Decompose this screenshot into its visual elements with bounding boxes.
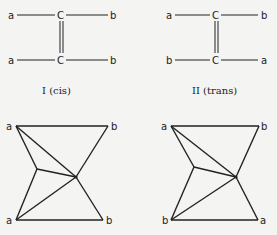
trans-caption: II (trans) xyxy=(192,85,237,96)
cis-top-left-label: a xyxy=(8,10,14,21)
graph-cis-edge xyxy=(16,126,76,177)
graph-trans-top-right-label: b xyxy=(261,121,267,132)
graph-cis-bottom-right-label: b xyxy=(106,215,112,226)
graph-cis-edge xyxy=(76,177,103,220)
graph-trans-center-node xyxy=(234,175,237,178)
graph-cis-top-left-label: a xyxy=(6,121,12,132)
cis-bottom-carbon: C xyxy=(57,55,64,66)
trans-top-carbon: C xyxy=(212,10,219,21)
graph-cis: a b a b xyxy=(6,121,117,226)
cis-bottom-left-label: a xyxy=(8,55,14,66)
isomer-diagram: a C b a C b I (cis) a C b b C a II (tran… xyxy=(0,0,277,235)
graph-trans-edge xyxy=(171,126,194,167)
cis-top-carbon: C xyxy=(57,10,64,21)
cis-caption: I (cis) xyxy=(42,85,71,96)
molecule-cis: a C b a C b I (cis) xyxy=(8,10,116,96)
graph-trans-edge xyxy=(236,177,258,220)
trans-bottom-right-label: a xyxy=(261,55,267,66)
trans-bottom-left-label: b xyxy=(166,55,172,66)
cis-top-right-label: b xyxy=(110,10,116,21)
graph-trans-bottom-right-label: a xyxy=(260,215,266,226)
graph-trans-top-left-label: a xyxy=(161,121,167,132)
graph-cis-bottom-left-label: a xyxy=(6,215,12,226)
molecule-trans: a C b b C a II (trans) xyxy=(166,10,267,96)
graph-cis-top-right-label: b xyxy=(111,121,117,132)
cis-bottom-right-label: b xyxy=(110,55,116,66)
graph-cis-edge xyxy=(76,126,108,177)
graph-trans-edge xyxy=(236,126,259,177)
graph-trans: a b b a xyxy=(161,121,267,226)
graph-trans-bottom-left-label: b xyxy=(162,215,168,226)
trans-top-left-label: a xyxy=(166,10,172,21)
graph-cis-center-node xyxy=(74,175,77,178)
graph-cis-edge xyxy=(37,169,76,177)
trans-bottom-carbon: C xyxy=(212,55,219,66)
trans-top-right-label: b xyxy=(261,10,267,21)
graph-cis-edge xyxy=(16,126,37,169)
